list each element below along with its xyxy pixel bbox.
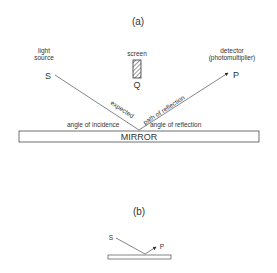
panel-b-source-point-s: S xyxy=(109,234,114,241)
detector-label-line2: (photomultiplier) xyxy=(209,54,256,62)
light-source-label-line2: source xyxy=(34,54,54,61)
panel-a: (a) light source S screen Q detector (ph… xyxy=(19,16,259,142)
detector-point-p: P xyxy=(233,70,239,80)
panel-a-label: (a) xyxy=(132,16,144,27)
screen-point-q: Q xyxy=(133,80,140,90)
panel-b-label: (b) xyxy=(133,206,145,217)
reflection-diagram: (a) light source S screen Q detector (ph… xyxy=(0,0,277,273)
screen-shape xyxy=(133,60,141,78)
source-point-s: S xyxy=(45,71,51,81)
panel-b-detector-point-p: P xyxy=(160,243,164,250)
screen-label: screen xyxy=(127,50,147,57)
detector-label-line1: detector xyxy=(220,47,244,54)
angle-of-incidence-label: angle of incidence xyxy=(67,121,120,129)
panel-b-reflected-ray-arrow xyxy=(145,247,156,254)
angle-of-reflection-label: angle of reflection xyxy=(150,121,202,129)
mirror-label: MIRROR xyxy=(121,132,158,142)
path-label-expected: expected xyxy=(109,99,136,120)
panel-b-incident-ray xyxy=(116,238,145,254)
panel-b-mirror xyxy=(108,255,171,259)
panel-b: (b) S P xyxy=(108,206,171,259)
